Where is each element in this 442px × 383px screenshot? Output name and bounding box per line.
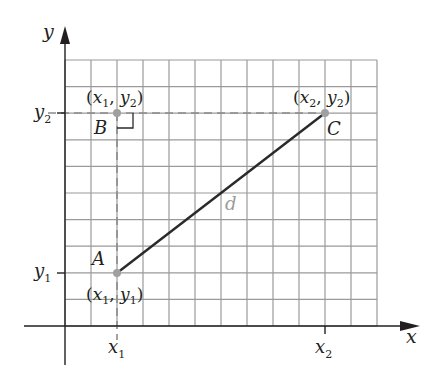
distance-diagram: y x y2 y1 x1 x2 A B C (x1, y1) (x1, y2) …	[0, 0, 442, 383]
diagram-canvas: y x y2 y1 x1 x2 A B C (x1, y1) (x1, y2) …	[0, 0, 442, 383]
tick-label-x2: x2	[315, 336, 332, 361]
point-a-coordinates: (x1, y1)	[86, 284, 143, 307]
point-c-coordinates: (x2, y2)	[293, 87, 350, 110]
x-axis-label: x	[406, 325, 417, 347]
point-b-coordinates: (x1, y2)	[86, 87, 143, 110]
y-axis-arrow-icon	[60, 26, 70, 44]
tick-label-y2: y2	[33, 101, 51, 126]
point-c	[321, 109, 329, 117]
tick-label-x1: x1	[108, 336, 125, 361]
distance-label: d	[225, 193, 237, 214]
y-axis-label: y	[42, 20, 54, 42]
point-a	[113, 269, 121, 277]
tick-label-y1: y1	[33, 260, 51, 285]
point-b-label: B	[93, 117, 107, 138]
point-a-label: A	[90, 248, 105, 269]
point-b	[113, 109, 121, 117]
point-c-label: C	[327, 118, 341, 139]
